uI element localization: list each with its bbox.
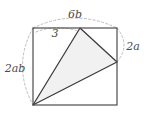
geometry-figure: 6b 3 2a 2ab [0, 0, 150, 117]
label-inner-3: 3 [52, 27, 59, 40]
arc-right-2a [117, 28, 124, 62]
label-right-2a: 2a [125, 40, 140, 53]
label-left-2ab: 2ab [4, 62, 26, 75]
figure-canvas: 6b 3 2a 2ab [0, 0, 150, 117]
shaded-triangle [33, 28, 117, 105]
label-top-6b: 6b [68, 8, 82, 21]
